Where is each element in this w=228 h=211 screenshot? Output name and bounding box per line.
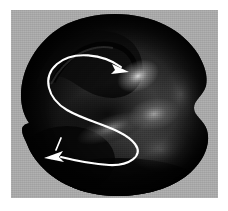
specimen-body bbox=[11, 10, 218, 198]
rim-vignette bbox=[11, 10, 218, 198]
specimen-plate bbox=[11, 10, 218, 198]
micrograph-canvas bbox=[11, 10, 218, 198]
figure-root bbox=[0, 0, 228, 211]
